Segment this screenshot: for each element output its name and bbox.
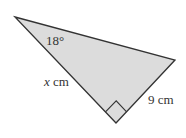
side-x-unit: cm — [50, 74, 69, 89]
side-x-label: x cm — [43, 74, 69, 89]
triangle-diagram: 18° x cm 9 cm — [0, 0, 186, 138]
angle-label: 18° — [46, 33, 64, 48]
side-9-label: 9 cm — [148, 92, 174, 107]
right-triangle — [15, 17, 175, 123]
